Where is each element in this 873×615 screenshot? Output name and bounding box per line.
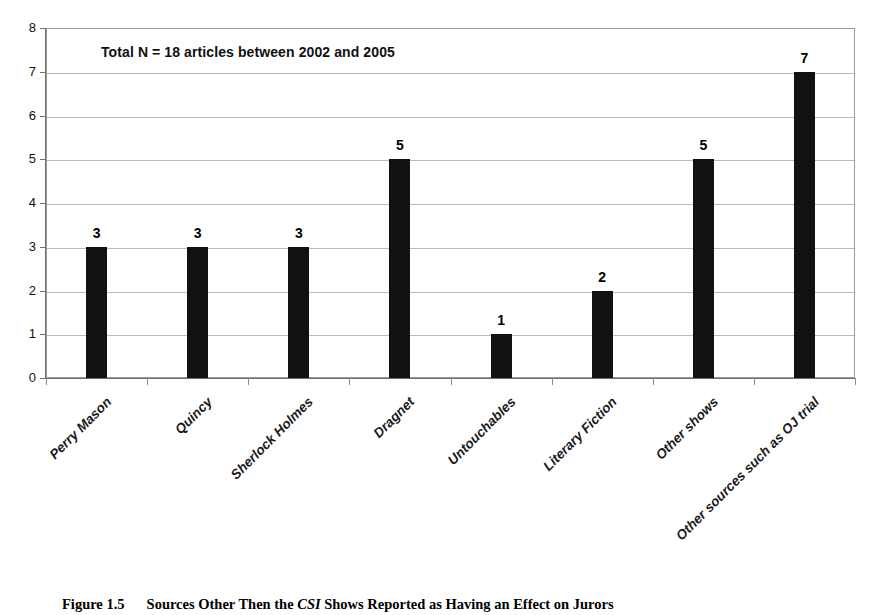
gridline bbox=[47, 335, 854, 336]
bar[interactable] bbox=[187, 247, 208, 378]
bar-value-label: 1 bbox=[481, 313, 521, 327]
figure-container: 012345678 33351257 Perry MasonQuincySher… bbox=[0, 0, 873, 615]
bar-value-label: 3 bbox=[77, 226, 117, 240]
bar[interactable] bbox=[592, 291, 613, 379]
category-label: Quincy bbox=[172, 394, 215, 437]
y-axis-tick-label: 1 bbox=[10, 327, 36, 340]
gridline bbox=[47, 160, 854, 161]
y-axis-tick-label: 0 bbox=[10, 371, 36, 384]
figure-number: Figure 1.5 bbox=[62, 596, 125, 612]
y-axis-tick bbox=[40, 203, 46, 204]
gridline bbox=[47, 204, 854, 205]
y-axis-tick-label: 7 bbox=[10, 65, 36, 78]
x-axis-tick bbox=[754, 378, 755, 385]
gridline bbox=[47, 248, 854, 249]
category-label: Literary Fiction bbox=[540, 394, 620, 474]
figure-caption: Figure 1.5Sources Other Then the CSI Sho… bbox=[62, 596, 862, 613]
y-axis-tick-label: 2 bbox=[10, 284, 36, 297]
y-axis-tick bbox=[40, 247, 46, 248]
category-label: Perry Mason bbox=[46, 394, 114, 462]
caption-text-part-1: Sources Other Then the bbox=[147, 596, 298, 612]
bar[interactable] bbox=[288, 247, 309, 378]
x-axis-tick bbox=[855, 378, 856, 385]
category-label: Untouchables bbox=[445, 394, 519, 468]
y-axis-tick-label: 6 bbox=[10, 109, 36, 122]
x-axis-tick bbox=[349, 378, 350, 385]
chart-annotation: Total N = 18 articles between 2002 and 2… bbox=[101, 44, 395, 60]
y-axis-tick-label: 3 bbox=[10, 240, 36, 253]
gridline bbox=[47, 292, 854, 293]
y-axis-tick bbox=[40, 334, 46, 335]
bar-value-label: 7 bbox=[784, 51, 824, 65]
x-axis-tick bbox=[653, 378, 654, 385]
y-axis-tick-label: 8 bbox=[10, 21, 36, 34]
x-axis-tick bbox=[451, 378, 452, 385]
bar[interactable] bbox=[491, 334, 512, 378]
bar-value-label: 2 bbox=[582, 270, 622, 284]
bar-value-label: 5 bbox=[683, 138, 723, 152]
category-label: Sherlock Holmes bbox=[228, 394, 316, 482]
x-axis-tick bbox=[46, 378, 47, 385]
y-axis-tick bbox=[40, 116, 46, 117]
bar[interactable] bbox=[794, 72, 815, 378]
y-axis-tick-label: 4 bbox=[10, 196, 36, 209]
x-axis-tick bbox=[552, 378, 553, 385]
x-axis-tick bbox=[248, 378, 249, 385]
y-axis-tick-label: 5 bbox=[10, 152, 36, 165]
category-label: Dragnet bbox=[371, 394, 418, 441]
y-axis-tick bbox=[40, 28, 46, 29]
bar[interactable] bbox=[693, 159, 714, 378]
bar-value-label: 3 bbox=[178, 226, 218, 240]
y-axis-tick bbox=[40, 159, 46, 160]
bar[interactable] bbox=[389, 159, 410, 378]
bar[interactable] bbox=[86, 247, 107, 378]
x-axis-tick bbox=[147, 378, 148, 385]
y-axis-tick bbox=[40, 291, 46, 292]
gridline bbox=[47, 73, 854, 74]
bar-value-label: 3 bbox=[279, 226, 319, 240]
gridline bbox=[47, 117, 854, 118]
caption-text-italic: CSI bbox=[297, 596, 320, 612]
category-label: Other shows bbox=[652, 394, 720, 462]
chart-plot-frame bbox=[46, 28, 855, 378]
caption-text-part-2: Shows Reported as Having an Effect on Ju… bbox=[321, 596, 614, 612]
y-axis-tick bbox=[40, 72, 46, 73]
bar-value-label: 5 bbox=[380, 138, 420, 152]
